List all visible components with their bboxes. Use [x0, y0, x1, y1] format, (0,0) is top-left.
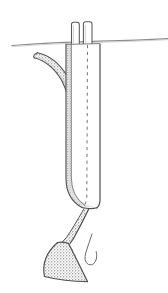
- right-siphon-tube: [83, 22, 92, 45]
- illustration-canvas: Burrowing organism in sediment — schemat…: [0, 0, 168, 293]
- figure-root: Burrowing organism in sediment — schemat…: [0, 0, 168, 293]
- main-body-shell: [66, 44, 100, 209]
- left-siphon-tube: [72, 22, 80, 45]
